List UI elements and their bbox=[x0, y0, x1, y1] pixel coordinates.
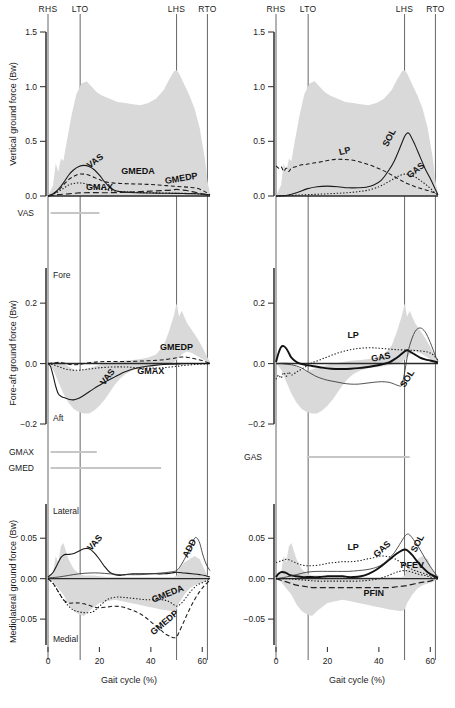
legend-gas: GAS bbox=[244, 452, 410, 462]
y-tick-label: 0.00 bbox=[20, 574, 37, 584]
curve-label-gmeda: GMEDA bbox=[121, 166, 155, 176]
y-tick-label: 0.5 bbox=[253, 136, 265, 146]
direction-label-bottom: Aft bbox=[53, 413, 64, 423]
legend-vas: VAS bbox=[18, 208, 100, 218]
y-tick-label: 1.0 bbox=[25, 82, 37, 92]
y-tick-label: −0.2 bbox=[20, 419, 37, 429]
legend-label: GMED bbox=[9, 463, 35, 473]
event-label-rhs: RHS bbox=[267, 4, 286, 14]
panel-foreaft-right: −0.20.00.2LPGASSOL bbox=[248, 268, 438, 429]
direction-label-top: Lateral bbox=[53, 506, 79, 516]
grf-band-total-fore-aft-GRF bbox=[48, 303, 210, 413]
y-axis-title: Fore-aft ground force (Bw) bbox=[8, 300, 18, 406]
y-tick-label: 0.05 bbox=[248, 533, 265, 543]
panel-foreaft-left: −0.20.00.2ForeAftVASGMAXGMEDPFore-aft gr… bbox=[8, 268, 210, 429]
y-tick-label: 1.5 bbox=[253, 27, 265, 37]
gait-force-figure: RHSRHSLTOLTOLHSLHSRTORTO0.00.51.01.5VASG… bbox=[0, 0, 455, 708]
panel-vertical-left: 0.00.51.01.5VASGMEDAGMAXGMEDPVertical gr… bbox=[8, 27, 210, 201]
legend-gmax: GMAX bbox=[9, 447, 97, 457]
y-tick-label: 1.0 bbox=[253, 82, 265, 92]
y-tick-label: 0.00 bbox=[248, 574, 265, 584]
y-tick-label: 0.05 bbox=[20, 533, 37, 543]
y-tick-label: −0.2 bbox=[248, 419, 265, 429]
curve-label-gmax: GMAX bbox=[86, 182, 113, 192]
legend-label: VAS bbox=[18, 208, 35, 218]
y-tick-label: −0.05 bbox=[243, 614, 265, 624]
x-tick-label: 60 bbox=[198, 656, 208, 666]
y-tick-label: 1.5 bbox=[25, 27, 37, 37]
curve-label-pfin: PFIN bbox=[363, 588, 384, 598]
curve-label-lp: LP bbox=[347, 330, 359, 340]
curve-label-gmedp: GMEDP bbox=[160, 342, 193, 352]
x-axis-title: Gait cycle (%) bbox=[329, 675, 385, 685]
figure-container: RHSRHSLTOLTOLHSLHSRTORTO0.00.51.01.5VASG… bbox=[0, 0, 455, 708]
event-label-lhs: LHS bbox=[396, 4, 413, 14]
curve-label-sol: SOL bbox=[398, 368, 417, 389]
curve-label-lp: LP bbox=[347, 542, 359, 552]
y-tick-label: 0.2 bbox=[25, 298, 37, 308]
legend-label: GAS bbox=[244, 452, 262, 462]
legend-gmed: GMED bbox=[9, 463, 162, 473]
direction-label-bottom: Medial bbox=[53, 634, 78, 644]
grf-band-total-mediolateral-GRF bbox=[276, 543, 438, 616]
x-tick-label: 20 bbox=[323, 656, 333, 666]
y-tick-label: 0.0 bbox=[25, 191, 37, 201]
panel-mediolateral-left: −0.050.000.05LateralMedialVASADDGMEDAGME… bbox=[8, 504, 210, 685]
curve-label-gmedp: GMEDP bbox=[148, 608, 180, 637]
x-tick-label: 40 bbox=[146, 656, 156, 666]
curve-label-vas: VAS bbox=[85, 533, 104, 553]
event-label-lhs: LHS bbox=[168, 4, 185, 14]
y-tick-label: 0.2 bbox=[253, 298, 265, 308]
x-tick-label: 0 bbox=[46, 656, 51, 666]
direction-label-top: Fore bbox=[53, 270, 71, 280]
curve-label-sol: SOL bbox=[409, 532, 427, 553]
curve-label-add: ADD bbox=[180, 537, 198, 559]
x-tick-label: 40 bbox=[374, 656, 384, 666]
event-label-lto: LTO bbox=[72, 4, 89, 14]
y-axis-title: Vertical ground force (Bw) bbox=[8, 62, 18, 166]
x-tick-label: 0 bbox=[274, 656, 279, 666]
x-tick-label: 20 bbox=[95, 656, 105, 666]
curve-label-gas: GAS bbox=[371, 539, 392, 559]
y-tick-label: 0.5 bbox=[25, 136, 37, 146]
y-tick-label: 0.0 bbox=[25, 359, 37, 369]
y-tick-label: 0.0 bbox=[253, 191, 265, 201]
grf-band-total-fore-aft-GRF bbox=[276, 303, 438, 413]
event-label-rto: RTO bbox=[198, 4, 217, 14]
y-tick-label: 0.0 bbox=[253, 359, 265, 369]
legend-label: GMAX bbox=[9, 447, 34, 457]
event-label-rhs: RHS bbox=[39, 4, 58, 14]
panel-mediolateral-right: −0.050.000.05LPGASSOLPFEVPFIN0204060Gait… bbox=[243, 504, 438, 685]
event-label-lto: LTO bbox=[300, 4, 317, 14]
y-axis-title: Mediolateral ground force (Bw) bbox=[8, 520, 18, 643]
curve-label-pfev: PFEV bbox=[401, 560, 425, 570]
panel-vertical-right: 0.00.51.01.5LPSOLGAS bbox=[253, 27, 438, 201]
y-tick-label: −0.05 bbox=[15, 614, 37, 624]
curve-label-gmax: GMAX bbox=[137, 366, 164, 376]
x-tick-label: 60 bbox=[426, 656, 436, 666]
event-label-rto: RTO bbox=[426, 4, 445, 14]
x-axis-title: Gait cycle (%) bbox=[101, 675, 157, 685]
